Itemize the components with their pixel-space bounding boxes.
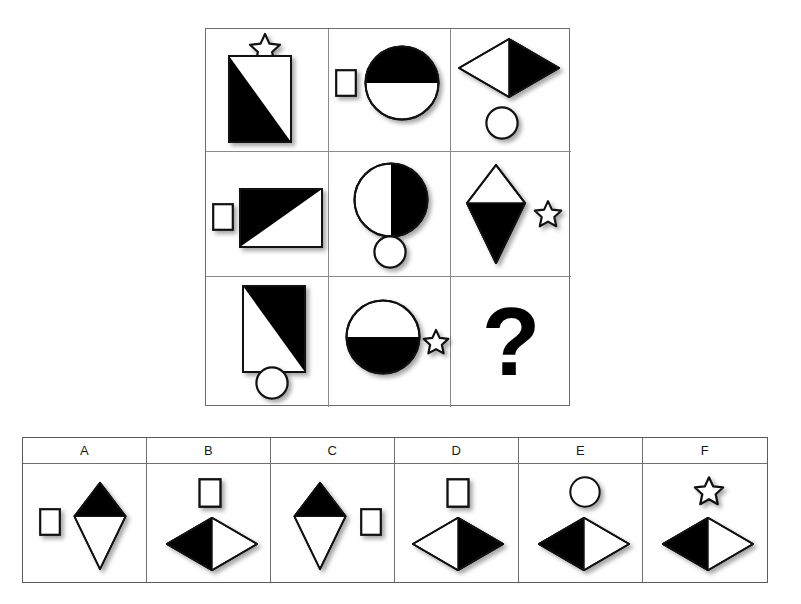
small-rectangle-white — [335, 69, 357, 97]
circle-outline — [569, 476, 601, 508]
option-label-d: D — [395, 438, 519, 464]
option-cell-a[interactable] — [23, 464, 147, 582]
circle-outline — [373, 235, 407, 269]
option-label-c: C — [271, 438, 395, 464]
question-mark: ? — [451, 294, 571, 390]
circle-outline — [485, 106, 519, 140]
matrix-cell-r1c3[interactable] — [451, 29, 571, 152]
circle-outline — [255, 366, 289, 400]
puzzle-stage: ? A B C D E F — [0, 0, 801, 604]
diamond-horizontal-left-black — [165, 516, 259, 572]
option-label-b: B — [147, 438, 271, 464]
matrix-cell-r3c3-missing[interactable]: ? — [451, 277, 571, 407]
star-outline-icon — [533, 199, 563, 228]
matrix-cell-r2c2[interactable] — [329, 152, 451, 277]
option-label-a: A — [23, 438, 147, 464]
diamond-vertical-top-black — [71, 481, 129, 571]
matrix-cell-r2c3[interactable] — [451, 152, 571, 277]
star-outline-icon — [422, 328, 450, 355]
matrix-cell-r3c2[interactable] — [329, 277, 451, 407]
option-cell-b[interactable] — [147, 464, 271, 582]
small-rectangle-white — [39, 508, 61, 536]
small-rectangle-white — [360, 508, 382, 536]
matrix-cell-r1c2[interactable] — [329, 29, 451, 152]
option-label-f: F — [643, 438, 767, 464]
matrix-cell-r1c1[interactable] — [206, 29, 329, 152]
diamond-horizontal-right-black — [457, 37, 561, 99]
diamond-horizontal-right-black — [411, 516, 505, 572]
diamond-horizontal-left-black — [537, 516, 631, 572]
small-rectangle-white — [198, 478, 222, 508]
small-rectangle-white — [446, 478, 470, 508]
option-cell-f[interactable] — [643, 464, 767, 582]
rectangle-vertical-diagonal-upper-right-black — [242, 285, 306, 373]
diamond-vertical-top-black — [291, 481, 349, 571]
circle-top-half-black — [364, 45, 440, 121]
matrix-grid: ? — [205, 28, 570, 406]
diamond-vertical-bottom-black — [465, 163, 527, 265]
circle-bottom-half-black — [345, 299, 421, 375]
option-cell-d[interactable] — [395, 464, 519, 582]
answer-options-panel: A B C D E F — [22, 437, 768, 583]
option-cell-c[interactable] — [271, 464, 395, 582]
option-label-e: E — [519, 438, 643, 464]
matrix-cell-r3c1[interactable] — [206, 277, 329, 407]
star-outline-icon — [693, 475, 725, 506]
diamond-horizontal-left-black — [661, 516, 755, 572]
small-rectangle-white — [212, 203, 234, 231]
option-cell-e[interactable] — [519, 464, 643, 582]
matrix-cell-r2c1[interactable] — [206, 152, 329, 277]
circle-right-half-black — [353, 162, 429, 238]
rectangle-vertical-diagonal-lower-left-black — [228, 55, 292, 143]
rectangle-horizontal-diagonal-upper-left-black — [239, 188, 323, 248]
